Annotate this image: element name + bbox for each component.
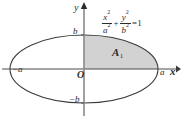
fraction-numerator-y: y2 — [120, 11, 130, 22]
denominator-exponent-b: 2 — [126, 22, 129, 28]
tick-label-negative-a: −a — [12, 65, 23, 74]
numerator-exponent-y: 2 — [126, 9, 129, 15]
origin-label: O — [77, 70, 84, 80]
tick-label-negative-b: −b — [69, 95, 80, 104]
ellipse-equation: x2 a2 + y2 b2 =1 — [101, 11, 142, 35]
fraction-denominator-b: b2 — [120, 24, 131, 35]
tick-label-a: a — [160, 68, 165, 77]
equation-fraction-y: y2 b2 — [120, 11, 131, 35]
y-axis-arrow-icon — [81, 2, 87, 9]
x-axis-label: x — [170, 66, 176, 77]
fraction-denominator-a: a2 — [102, 24, 113, 35]
figure-canvas — [0, 0, 181, 127]
y-axis-label: y — [74, 3, 78, 13]
x-axis-arrow-icon — [176, 66, 181, 73]
numerator-exponent-x: 2 — [107, 9, 110, 15]
denominator-exponent-a: 2 — [108, 22, 111, 28]
equation-right-hand-side: =1 — [132, 18, 142, 28]
region-label-A1: A1 — [112, 47, 123, 58]
denominator-base-a: a — [103, 25, 108, 35]
equation-fraction-x: x2 a2 — [102, 11, 113, 35]
ellipse-figure: y x O b −b a −a A1 x2 a2 + y2 b2 =1 — [0, 0, 181, 127]
region-label-subscript: 1 — [120, 52, 124, 60]
region-label-base: A — [112, 46, 119, 58]
tick-label-b: b — [73, 27, 78, 36]
fraction-numerator-x: x2 — [102, 11, 112, 22]
equation-plus-operator: + — [114, 18, 119, 28]
